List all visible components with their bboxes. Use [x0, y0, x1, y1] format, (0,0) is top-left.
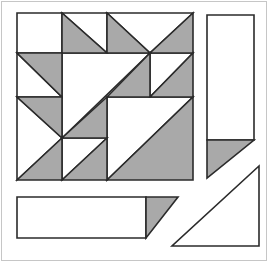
bottom-rectangle-white-body — [17, 197, 146, 238]
right-rectangle-gray-tip — [207, 140, 254, 178]
white-square-row1-col1 — [17, 13, 62, 53]
bottom-rectangle-gray-tip — [146, 197, 178, 238]
dissection-figure — [0, 0, 268, 262]
right-rectangle-white-body — [207, 15, 254, 140]
